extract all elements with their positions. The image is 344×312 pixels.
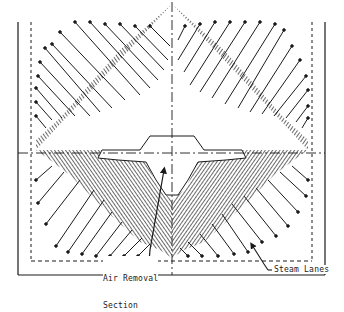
steam-lanes-label: Steam Lanes: [274, 265, 329, 274]
air-removal-label: Air Removal Section: [103, 256, 158, 312]
steam-lanes-leader: [252, 245, 272, 270]
air-removal-label-line2: Section: [103, 301, 158, 310]
steam-lanes-upper-right: [178, 21, 309, 128]
air-removal-label-line1: Air Removal: [103, 274, 158, 283]
